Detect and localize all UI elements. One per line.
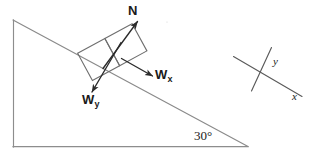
normal-force-label: N	[128, 4, 137, 17]
physics-diagram-figure: N Wx Wy 30° y x	[0, 0, 314, 160]
weight-perpendicular-label-sub: y	[95, 99, 100, 109]
weight-parallel-label: Wx	[155, 68, 173, 84]
weight-parallel-arrow	[122, 59, 153, 77]
incline-angle-label: 30°	[194, 129, 212, 142]
incline-surface	[13, 20, 248, 147]
incline-triangle	[13, 20, 248, 147]
axis-x-label: x	[292, 91, 297, 102]
weight-parallel-label-base: W	[155, 67, 167, 82]
block-on-incline	[78, 24, 147, 81]
weight-perpendicular-label: Wy	[82, 93, 100, 109]
axis-y-label: y	[273, 56, 278, 67]
scan-speckle	[166, 21, 167, 22]
weight-parallel-label-sub: x	[168, 74, 173, 84]
weight-perpendicular-label-base: W	[82, 92, 94, 107]
